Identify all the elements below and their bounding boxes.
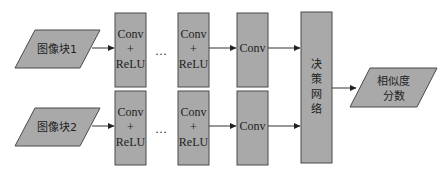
ellipsis: … [155, 122, 167, 136]
plus-label: + [190, 120, 197, 134]
relu-label: ReLU [116, 135, 146, 149]
output-label-line1: 相似度 [377, 74, 410, 88]
input-patch-1-label: 图像块1 [37, 43, 77, 56]
decision-char: 网 [311, 88, 322, 101]
conv-label: Conv [180, 105, 206, 119]
relu-label: ReLU [116, 57, 146, 71]
plus-label: + [127, 120, 134, 134]
ellipsis: … [155, 44, 167, 58]
diagram-canvas: 图像块1 Conv + ReLU … Conv + ReLU Conv 图像块2… [0, 0, 447, 177]
decision-char: 策 [311, 72, 322, 86]
output-label-line2: 分数 [383, 90, 405, 103]
conv-label: Conv [117, 105, 143, 119]
input-patch-2-label: 图像块2 [37, 121, 77, 134]
plus-label: + [127, 42, 134, 56]
decision-char: 决 [311, 58, 322, 71]
relu-label: ReLU [179, 135, 209, 149]
plus-label: + [190, 42, 197, 56]
conv-label: Conv [117, 27, 143, 41]
relu-label: ReLU [179, 57, 209, 71]
decision-char: 络 [311, 102, 322, 116]
conv-label: Conv [180, 27, 206, 41]
conv-label: Conv [239, 41, 265, 55]
conv-label: Conv [239, 119, 265, 133]
